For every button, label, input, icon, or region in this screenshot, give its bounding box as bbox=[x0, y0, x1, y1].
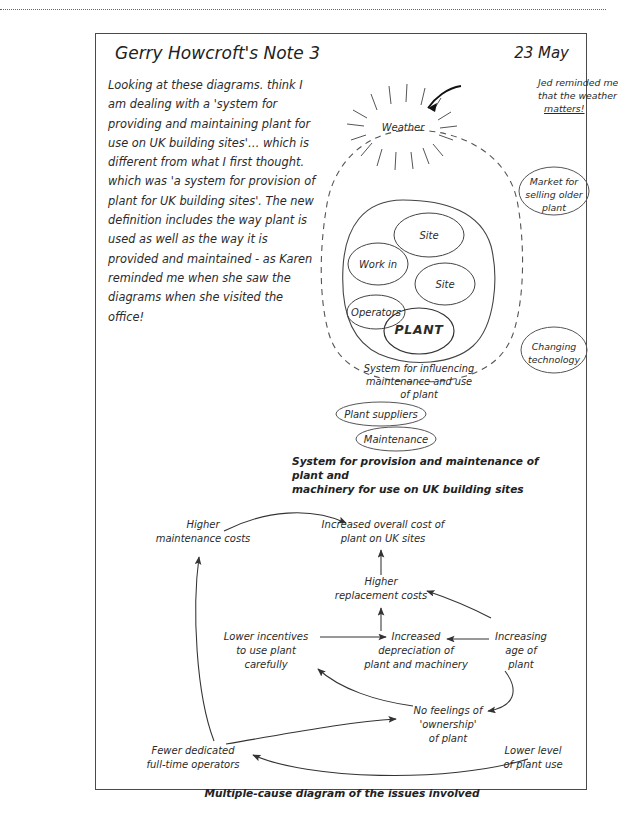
label-operators: Operators bbox=[351, 306, 401, 319]
node-lower-incentives-line-1: Lower incentives bbox=[224, 630, 308, 643]
label-market-line-3: plant bbox=[542, 201, 566, 214]
top-dotted-rule bbox=[0, 9, 606, 10]
edge-age-to-replacement bbox=[427, 591, 491, 618]
inner-boundary-label-1: System for influencing bbox=[364, 362, 474, 375]
label-weather: Weather bbox=[382, 121, 425, 134]
node-increased-depreciation-line-3: plant and machinery bbox=[364, 658, 468, 671]
note-page: Gerry Howcroft's Note 3 23 May Looking a… bbox=[95, 33, 587, 790]
node-higher-replacement-costs-line-2: replacement costs bbox=[335, 589, 427, 602]
label-work-in: Work in bbox=[359, 258, 397, 271]
node-lower-incentives-line-2: to use plant bbox=[236, 644, 296, 657]
label-site-mid: Site bbox=[435, 278, 454, 291]
label-market-line-2: selling older bbox=[525, 188, 582, 201]
annotation-line-1: Jed reminded me bbox=[538, 76, 618, 89]
node-fewer-dedicated-operators-line-1: Fewer dedicated bbox=[151, 744, 234, 757]
system-boundary-dashed bbox=[321, 130, 522, 382]
node-increased-overall-cost-line-1: Increased overall cost of bbox=[322, 518, 445, 531]
node-no-feelings-ownership-line-3: of plant bbox=[429, 732, 467, 745]
edge-age-to-ownership bbox=[488, 671, 513, 711]
node-increasing-age-line-3: plant bbox=[508, 658, 534, 671]
node-lower-level-plant-use-line-1: Lower level bbox=[504, 744, 561, 757]
node-fewer-dedicated-operators-line-2: full-time operators bbox=[146, 758, 239, 771]
label-market-line-1: Market for bbox=[530, 175, 578, 188]
label-maintenance: Maintenance bbox=[364, 433, 428, 446]
node-increased-overall-cost-line-2: plant on UK sites bbox=[341, 532, 426, 545]
node-higher-replacement-costs-line-1: Higher bbox=[364, 575, 397, 588]
label-changing-tech-line-1: Changing bbox=[532, 340, 577, 353]
inner-boundary-label-3: of plant bbox=[400, 388, 438, 401]
annotation-arrowhead bbox=[428, 103, 437, 112]
inner-system-boundary bbox=[343, 200, 495, 362]
node-lower-incentives-line-3: carefully bbox=[244, 658, 287, 671]
page-title: Gerry Howcroft's Note 3 bbox=[115, 43, 320, 63]
node-increased-depreciation-line-1: Increased bbox=[392, 630, 441, 643]
node-higher-maintenance-costs-line-2: maintenance costs bbox=[156, 532, 251, 545]
system-map-diagram: Jed reminded me that the weather matters… bbox=[311, 72, 589, 402]
node-increasing-age-line-1: Increasing bbox=[495, 630, 547, 643]
label-changing-tech-line-2: technology bbox=[528, 353, 580, 366]
node-higher-maintenance-costs-line-1: Higher bbox=[186, 518, 219, 531]
system-caption-line-1: System for provision and maintenance of … bbox=[292, 454, 572, 482]
node-increased-depreciation-line-2: depreciation of bbox=[378, 644, 454, 657]
annotation-line-3: matters! bbox=[544, 102, 585, 115]
node-no-feelings-ownership-line-1: No feelings of bbox=[414, 704, 483, 717]
node-lower-level-plant-use-line-2: of plant use bbox=[503, 758, 562, 771]
node-increasing-age-line-2: age of bbox=[505, 644, 536, 657]
inner-boundary-label-2: maintenance and use bbox=[366, 375, 472, 388]
label-site-top: Site bbox=[419, 229, 438, 242]
label-plant: PLANT bbox=[395, 323, 444, 336]
annotation-line-2: that the weather bbox=[538, 89, 617, 102]
multiple-cause-diagram: Higher maintenance costs Increased overa… bbox=[96, 479, 588, 791]
page-date: 23 May bbox=[514, 44, 569, 62]
edge-operators-to-ownership bbox=[226, 719, 396, 744]
note-body-text: Looking at these diagrams. think I am de… bbox=[108, 76, 320, 327]
label-plant-suppliers: Plant suppliers bbox=[344, 408, 418, 421]
edge-ownership-to-incentives bbox=[318, 669, 413, 706]
annotation-arrow bbox=[428, 86, 461, 108]
edge-operators-to-maintenance bbox=[196, 557, 214, 741]
node-no-feelings-ownership-line-2: 'ownership' bbox=[419, 718, 476, 731]
edge-plant-use-to-operators bbox=[253, 755, 528, 776]
cause-diagram-caption: Multiple-cause diagram of the issues inv… bbox=[204, 786, 479, 800]
